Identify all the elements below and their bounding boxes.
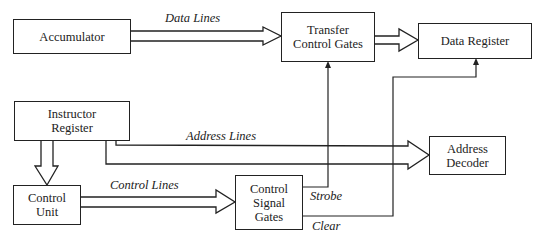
clear-arrowhead-icon xyxy=(473,58,479,65)
control-unit-box: Control Unit xyxy=(13,185,81,225)
address-decoder-line1: Address xyxy=(447,142,488,156)
data-lines-label: Data Lines xyxy=(165,11,220,26)
control-lines-label: Control Lines xyxy=(110,178,179,193)
address-decoder-box: Address Decoder xyxy=(429,136,506,175)
transfer-label-line2: Control Gates xyxy=(293,37,363,51)
strobe-line xyxy=(302,66,328,187)
transfer-label-line1: Transfer xyxy=(307,23,349,37)
control-unit-line2: Unit xyxy=(36,205,58,219)
transfer-control-gates-box: Transfer Control Gates xyxy=(281,12,375,62)
control-unit-line1: Control xyxy=(28,191,66,205)
instructor-to-control-unit-arrow xyxy=(35,140,58,185)
clear-label: Clear xyxy=(312,219,340,234)
instructor-label-line1: Instructor xyxy=(48,107,97,121)
instructor-label-line2: Register xyxy=(51,121,93,135)
block-diagram: Accumulator Transfer Control Gates Data … xyxy=(0,0,537,240)
transfer-to-data-register-arrow xyxy=(374,29,418,51)
csg-line1: Control xyxy=(250,182,288,196)
data-register-label: Data Register xyxy=(441,34,509,48)
csg-line2: Signal xyxy=(253,196,285,210)
strobe-arrowhead-icon xyxy=(325,61,331,68)
instructor-register-box: Instructor Register xyxy=(14,101,130,141)
accumulator-label: Accumulator xyxy=(39,30,104,44)
address-lines-arrow xyxy=(106,140,429,169)
data-lines-arrow xyxy=(130,27,281,45)
address-decoder-line2: Decoder xyxy=(446,156,488,170)
csg-line3: Gates xyxy=(255,210,283,224)
accumulator-box: Accumulator xyxy=(13,19,131,54)
address-lines-label: Address Lines xyxy=(186,129,256,144)
strobe-label: Strobe xyxy=(310,189,342,204)
data-register-box: Data Register xyxy=(418,23,532,59)
control-lines-arrow xyxy=(80,190,235,213)
control-signal-gates-box: Control Signal Gates xyxy=(235,175,303,230)
